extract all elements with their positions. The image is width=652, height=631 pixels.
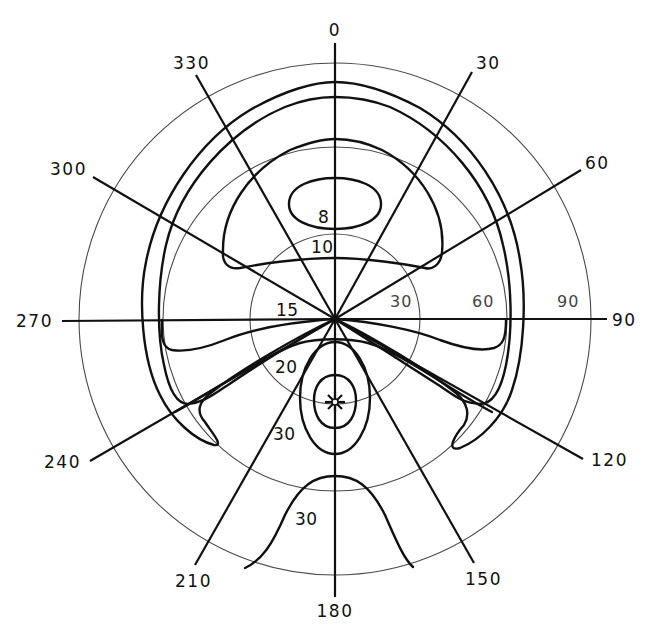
azimuth-label-240: 240 [44, 452, 81, 472]
contour-labels: 8 10 15 20 30 30 [273, 207, 334, 529]
azimuth-label-30: 30 [476, 53, 501, 73]
contour-label-30-inner: 30 [273, 424, 296, 444]
spoke-330 [196, 75, 335, 319]
azimuth-label-180: 180 [317, 601, 354, 621]
azimuth-label-210: 210 [175, 571, 212, 591]
contour-30-bottom-bell [245, 476, 413, 568]
contour-label-8: 8 [318, 207, 329, 227]
azimuth-label-270: 270 [16, 311, 53, 331]
azimuth-label-150: 150 [465, 569, 502, 589]
azimuth-label-0: 0 [329, 20, 341, 40]
contour-label-15: 15 [276, 300, 299, 320]
azimuth-label-60: 60 [585, 153, 610, 173]
contour-label-10: 10 [311, 237, 334, 257]
spoke-300 [93, 177, 335, 319]
azimuth-label-300: 300 [50, 159, 87, 179]
ring-label-90: 90 [557, 292, 579, 311]
contour-label-20: 20 [275, 357, 298, 377]
spoke-60 [335, 170, 581, 319]
contours [142, 82, 524, 568]
ring-label-30: 30 [390, 292, 412, 311]
polar-contour-diagram: 0 30 60 90 120 150 180 210 240 270 300 3… [0, 0, 652, 631]
star-marker-icon [325, 392, 345, 412]
ring-label-60: 60 [472, 292, 494, 311]
azimuth-label-330: 330 [173, 53, 210, 73]
contour-label-30-bottom: 30 [295, 509, 318, 529]
spoke-30 [335, 72, 472, 319]
azimuth-label-90: 90 [612, 310, 637, 330]
azimuth-label-120: 120 [591, 450, 628, 470]
